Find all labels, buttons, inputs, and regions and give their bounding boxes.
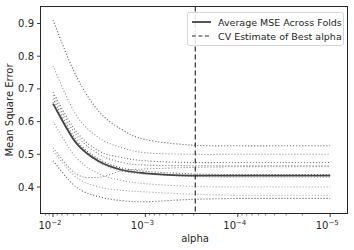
x-axis-label: alpha	[181, 233, 209, 244]
fold-mse-curve	[53, 99, 330, 175]
fold-mse-curve	[53, 92, 330, 162]
fold-mse-curve	[53, 66, 330, 154]
fold-mse-curve	[53, 95, 330, 165]
legend-entry-best-alpha: CV Estimate of Best alpha	[218, 31, 342, 42]
mse-vs-alpha-chart: 10−210−310−410−5 0.40.50.60.70.80.9 alph…	[0, 0, 354, 250]
y-tick-label: 0.8	[18, 51, 34, 62]
x-axis-ticks: 10−210−310−410−5	[38, 214, 338, 232]
y-tick-label: 0.5	[18, 149, 34, 160]
y-axis-label: Mean Square Error	[4, 63, 15, 157]
y-tick-label: 0.9	[18, 18, 34, 29]
plot-series	[53, 20, 330, 202]
y-tick-label: 0.6	[18, 116, 34, 127]
x-tick-label: 10−2	[38, 219, 61, 231]
y-tick-label: 0.7	[18, 83, 34, 94]
x-tick-label: 10−3	[131, 219, 154, 231]
x-tick-label: 10−5	[316, 219, 339, 231]
x-tick-label: 10−4	[223, 219, 247, 231]
legend: Average MSE Across Folds CV Estimate of …	[188, 13, 344, 46]
average-mse-curve	[53, 104, 330, 176]
legend-entry-average-mse: Average MSE Across Folds	[218, 17, 342, 28]
fold-mse-curve	[53, 148, 330, 178]
y-tick-label: 0.4	[18, 182, 34, 193]
y-axis-ticks: 0.40.50.60.70.80.9	[18, 18, 40, 193]
